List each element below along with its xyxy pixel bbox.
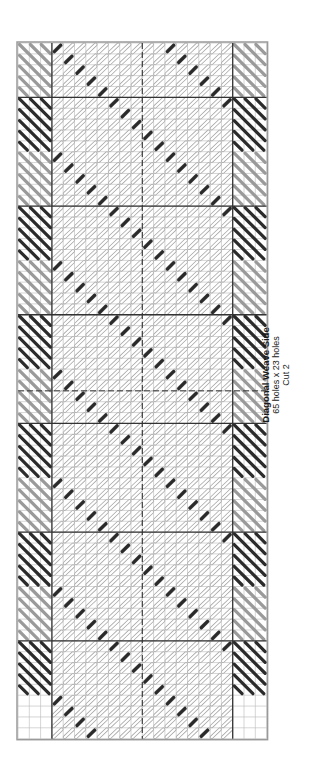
pattern-cut-count: Cut 2	[281, 327, 291, 422]
pattern-title: Diagonal Weave Side	[261, 327, 271, 422]
pattern-dimensions: 65 holes x 23 holes	[271, 327, 281, 422]
